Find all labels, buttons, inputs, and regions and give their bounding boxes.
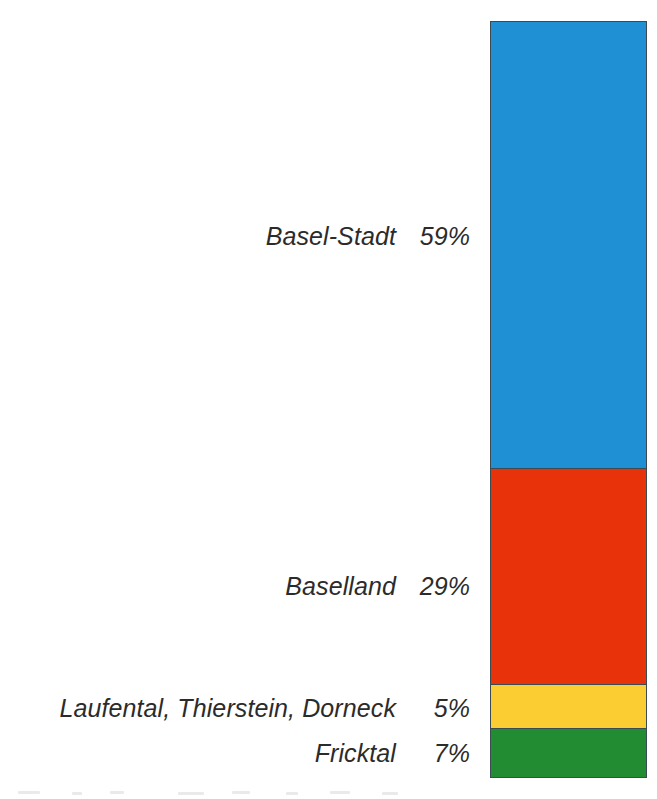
bar-label-basel-stadt: Basel-Stadt 59% bbox=[266, 222, 470, 251]
stacked-bar bbox=[490, 21, 647, 778]
bar-label-value: 7% bbox=[418, 739, 470, 768]
bar-segment-baselland bbox=[491, 468, 646, 684]
bar-label-name: Basel-Stadt bbox=[266, 222, 396, 251]
scan-artifact-row bbox=[0, 786, 657, 799]
bar-label-value: 29% bbox=[418, 572, 470, 601]
stacked-bar-chart: Basel-Stadt 59% Baselland 29% Laufental,… bbox=[0, 0, 657, 799]
bar-segment-basel-stadt bbox=[491, 22, 646, 468]
bar-label-value: 59% bbox=[418, 222, 470, 251]
bar-label-name: Baselland bbox=[285, 572, 396, 601]
bar-label-name: Laufental, Thierstein, Dorneck bbox=[59, 694, 396, 723]
bar-label-name: Fricktal bbox=[315, 739, 396, 768]
bar-label-fricktal: Fricktal 7% bbox=[315, 739, 470, 768]
bar-label-baselland: Baselland 29% bbox=[285, 572, 470, 601]
bar-segment-fricktal bbox=[491, 728, 646, 777]
bar-label-laufental-thierstein-dorneck: Laufental, Thierstein, Dorneck 5% bbox=[59, 694, 470, 723]
bar-label-value: 5% bbox=[418, 694, 470, 723]
bar-segment-laufental-thierstein-dorneck bbox=[491, 684, 646, 728]
